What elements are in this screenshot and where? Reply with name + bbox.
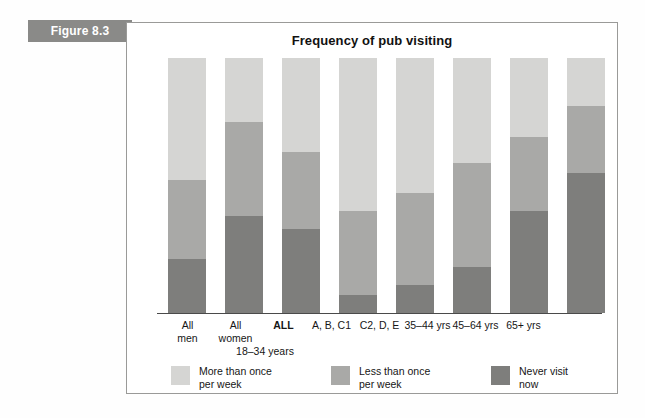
stacked-bar[interactable]	[168, 58, 206, 313]
bar-segment-never-visit[interactable]	[510, 211, 548, 313]
bar-segment-more-than-once[interactable]	[453, 58, 491, 163]
stacked-bar[interactable]	[396, 58, 434, 313]
bar-slot	[168, 58, 225, 313]
bar-segment-more-than-once[interactable]	[225, 58, 263, 122]
bar-slot	[510, 58, 567, 313]
stacked-bar[interactable]	[453, 58, 491, 313]
x-axis-group-label: 18–34 years	[168, 345, 362, 357]
bar-slot	[453, 58, 510, 313]
plot-area	[168, 58, 605, 313]
legend-label: Never visitnow	[519, 365, 568, 391]
bar-segment-less-than-once[interactable]	[339, 211, 377, 295]
bar-segment-less-than-once[interactable]	[282, 152, 320, 229]
bar-segment-never-visit[interactable]	[453, 267, 491, 313]
legend-label: More than onceper week	[199, 365, 272, 391]
stacked-bars-group	[168, 58, 605, 313]
legend-label: Less than onceper week	[359, 365, 430, 391]
bar-segment-never-visit[interactable]	[567, 173, 605, 313]
bar-segment-less-than-once[interactable]	[567, 106, 605, 172]
stacked-bar[interactable]	[225, 58, 263, 313]
x-axis-line	[157, 313, 602, 314]
bar-segment-never-visit[interactable]	[396, 285, 434, 313]
bar-segment-less-than-once[interactable]	[510, 137, 548, 211]
figure-number-tab: Figure 8.3	[28, 20, 132, 42]
legend-item-never-visit[interactable]: Never visitnow	[491, 365, 645, 391]
bar-segment-never-visit[interactable]	[225, 216, 263, 313]
stacked-bar[interactable]	[339, 58, 377, 313]
stacked-bar[interactable]	[282, 58, 320, 313]
bar-segment-less-than-once[interactable]	[453, 163, 491, 268]
bar-slot	[339, 58, 396, 313]
bar-segment-never-visit[interactable]	[168, 259, 206, 313]
bar-segment-more-than-once[interactable]	[282, 58, 320, 152]
bar-segment-more-than-once[interactable]	[339, 58, 377, 211]
figure-root: Figure 8.3 Frequency of pub visiting All…	[0, 0, 645, 418]
bar-slot	[567, 58, 624, 313]
chart-panel: Frequency of pub visiting AllmenAllwomen…	[126, 22, 618, 394]
legend-swatch-never-visit	[491, 366, 510, 385]
legend-swatch-less-than-once	[331, 366, 350, 385]
legend-item-less-than-once[interactable]: Less than onceper week	[331, 365, 491, 391]
chart-title: Frequency of pub visiting	[127, 33, 617, 48]
x-axis-tick-labels: AllmenAllwomenALLA, B, C1C2, D, E35–44 y…	[168, 319, 605, 345]
bar-segment-more-than-once[interactable]	[510, 58, 548, 137]
chart-legend: More than onceper weekLess than onceper …	[171, 365, 645, 391]
bar-segment-less-than-once[interactable]	[396, 193, 434, 285]
bar-slot	[396, 58, 453, 313]
stacked-bar[interactable]	[510, 58, 548, 313]
bar-segment-less-than-once[interactable]	[225, 122, 263, 216]
bar-segment-less-than-once[interactable]	[168, 180, 206, 259]
bar-segment-never-visit[interactable]	[339, 295, 377, 313]
bar-slot	[282, 58, 339, 313]
bar-slot	[225, 58, 282, 313]
stacked-bar[interactable]	[567, 58, 605, 313]
bar-segment-more-than-once[interactable]	[168, 58, 206, 180]
bar-segment-more-than-once[interactable]	[396, 58, 434, 193]
legend-swatch-more-than-once	[171, 366, 190, 385]
legend-item-more-than-once[interactable]: More than onceper week	[171, 365, 331, 391]
bar-segment-never-visit[interactable]	[282, 229, 320, 313]
bar-segment-more-than-once[interactable]	[567, 58, 605, 106]
x-axis-label: 65+ yrs	[495, 319, 552, 345]
